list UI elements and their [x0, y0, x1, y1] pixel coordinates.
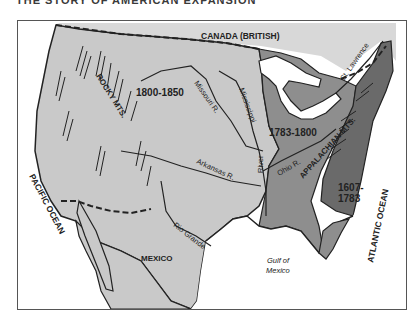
expansion-map: CANADA (BRITISH) 1800-1850 1783-1800 160… [18, 21, 406, 309]
label-mexico: MEXICO [141, 254, 173, 263]
label-1607: 1607- [338, 182, 364, 193]
label-1783-1800: 1783-1800 [269, 127, 317, 138]
label-river: River [256, 155, 265, 173]
label-gulf-line2: Mexico [266, 266, 290, 275]
label-canada: CANADA (BRITISH) [201, 31, 280, 41]
map-frame: CANADA (BRITISH) 1800-1850 1783-1800 160… [17, 20, 407, 310]
label-gulf-line1: Gulf of [267, 256, 290, 265]
page-title: THE STORY OF AMERICAN EXPANSION [16, 0, 256, 6]
label-1800-1850: 1800-1850 [136, 87, 184, 98]
label-1783: 1783 [338, 193, 361, 204]
